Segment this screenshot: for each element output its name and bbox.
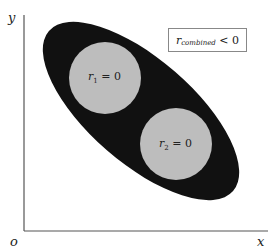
legend-box: rcombined < 0 bbox=[168, 28, 247, 52]
legend-relation: < 0 bbox=[219, 34, 239, 47]
circle-1-label: r1 = 0 bbox=[88, 70, 121, 85]
origin-label: o bbox=[10, 234, 18, 249]
y-axis-label: y bbox=[8, 10, 15, 25]
circle-2-label: r2 = 0 bbox=[159, 137, 192, 152]
legend-subscript: combined bbox=[181, 40, 216, 48]
x-axis-label: x bbox=[257, 234, 264, 249]
